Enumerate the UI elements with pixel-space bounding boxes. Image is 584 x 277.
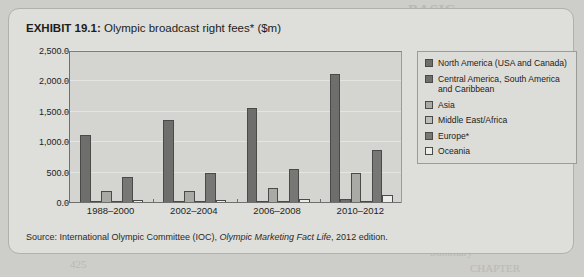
source-prefix: Source: International Olympic Committee …: [26, 232, 220, 242]
x-axis-label: 1988–2000: [87, 205, 135, 216]
bar-group: [153, 52, 236, 203]
legend-item[interactable]: Asia: [425, 100, 570, 111]
legend-label: Europe*: [438, 131, 469, 142]
x-axis-label: 2010–2012: [337, 205, 385, 216]
legend-item[interactable]: North America (USA and Canada): [425, 58, 570, 69]
exhibit-number: EXHIBIT 19.1:: [26, 22, 101, 34]
bar: [330, 74, 341, 204]
legend-item[interactable]: Central America, South America and Carib…: [425, 74, 570, 95]
legend-item[interactable]: Oceania: [425, 146, 570, 157]
source-note: Source: International Olympic Committee …: [26, 232, 388, 242]
legend-item[interactable]: Europe*: [425, 131, 570, 142]
bar-group: [70, 52, 153, 203]
bar: [372, 150, 383, 203]
bar: [247, 108, 258, 203]
legend-swatch-icon: [425, 59, 433, 67]
y-axis-tick-label: 0.0: [23, 198, 69, 208]
bar-chart: 2,500.02,000.01,500.01,000.0500.00.0 198…: [21, 45, 561, 215]
x-axis-label: 2006–2008: [253, 205, 301, 216]
x-axis-line: [70, 202, 401, 204]
source-suffix: , 2012 edition.: [331, 232, 388, 242]
bar: [80, 135, 91, 203]
legend-label: Middle East/Africa: [438, 115, 507, 126]
x-axis-labels: 1988–20002002–20042006–20082010–2012: [69, 205, 402, 221]
bar: [205, 173, 216, 203]
legend-swatch-icon: [425, 75, 433, 83]
legend-swatch-icon: [425, 147, 433, 155]
bar: [351, 173, 362, 203]
ghost-text: CHAPTER: [470, 262, 520, 274]
y-axis-tick-label: 2,500.0: [23, 46, 69, 56]
x-axis-label: 2002–2004: [170, 205, 218, 216]
y-axis: 2,500.02,000.01,500.01,000.0500.00.0: [21, 51, 69, 203]
legend-item[interactable]: Middle East/Africa: [425, 115, 570, 126]
bar-group: [320, 52, 403, 203]
legend-label: Oceania: [438, 146, 470, 157]
legend-label: North America (USA and Canada): [438, 58, 567, 69]
y-axis-tick-label: 1,500.0: [23, 107, 69, 117]
y-axis-tick-label: 2,000.0: [23, 76, 69, 86]
gridline: [70, 50, 401, 51]
legend-swatch-icon: [425, 116, 433, 124]
legend-swatch-icon: [425, 101, 433, 109]
plot-area: [69, 51, 402, 203]
y-axis-tick-label: 1,000.0: [23, 137, 69, 147]
exhibit-panel: EXHIBIT 19.1: Olympic broadcast right fe…: [8, 8, 574, 254]
ghost-text: 425: [70, 258, 87, 270]
exhibit-title: EXHIBIT 19.1: Olympic broadcast right fe…: [26, 22, 281, 34]
bar: [122, 177, 133, 203]
bar: [289, 169, 300, 203]
bar-series-container: [70, 52, 401, 203]
source-publication: Olympic Marketing Fact Life: [220, 232, 332, 242]
legend-label: Central America, South America and Carib…: [438, 74, 570, 95]
bar: [163, 120, 174, 203]
y-axis-tick-label: 500.0: [23, 168, 69, 178]
legend-label: Asia: [438, 100, 455, 111]
bar-group: [237, 52, 320, 203]
chart-legend: North America (USA and Canada)Central Am…: [417, 51, 577, 164]
exhibit-title-text: Olympic broadcast right fees* ($m): [104, 22, 281, 34]
legend-swatch-icon: [425, 132, 433, 140]
